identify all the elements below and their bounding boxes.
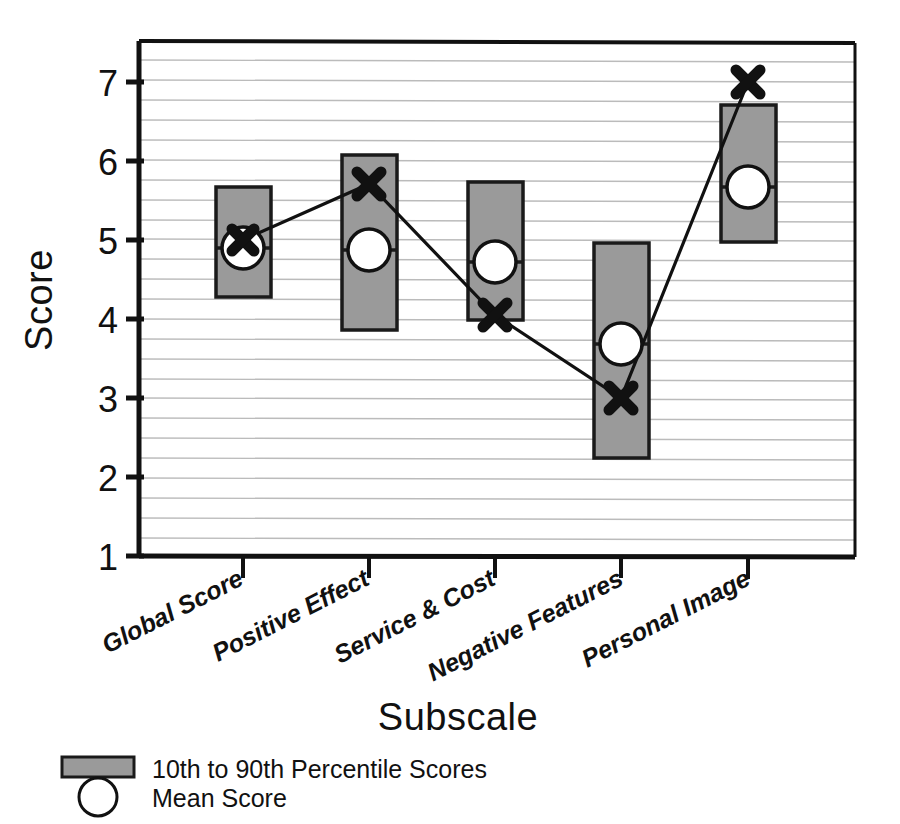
y-tick-label-1: 1 — [98, 537, 118, 578]
chart-legend: 10th to 90th Percentile Scores Mean Scor… — [62, 755, 487, 816]
y-tick-label-2: 2 — [98, 458, 118, 499]
y-tick-label-4: 4 — [98, 300, 118, 341]
chart-figure: 7 6 5 4 3 2 1 Score — [0, 0, 900, 824]
x-axis-ticks — [243, 557, 748, 579]
x-axis-title: Subscale — [378, 696, 538, 738]
y-axis-title: Score — [18, 249, 60, 351]
y-tick-label-6: 6 — [98, 142, 118, 183]
legend-swatch-mean-circle — [79, 778, 117, 816]
mean-marker-personal-image — [727, 166, 769, 208]
y-tick-label-3: 3 — [98, 379, 118, 420]
legend-label-percentile: 10th to 90th Percentile Scores — [152, 755, 487, 783]
mean-marker-service-cost — [474, 241, 516, 283]
y-tick-label-5: 5 — [98, 221, 118, 262]
mean-marker-positive-effect — [348, 229, 390, 271]
box-percentile-chart: 7 6 5 4 3 2 1 Score — [0, 0, 900, 824]
y-tick-label-7: 7 — [98, 63, 118, 104]
legend-swatch-percentile-bar — [62, 757, 134, 777]
legend-label-mean: Mean Score — [152, 784, 287, 812]
x-marker-global-score — [232, 229, 254, 251]
mean-marker-negative-features — [600, 323, 642, 365]
